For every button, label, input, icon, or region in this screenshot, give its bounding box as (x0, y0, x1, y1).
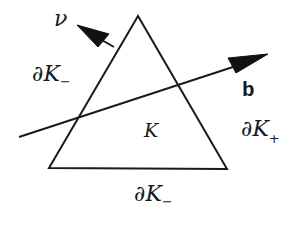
partial-symbol: ∂ (32, 61, 43, 86)
boundary-symbol: K (252, 116, 268, 141)
boundary-subscript: − (60, 74, 71, 89)
boundary-symbol: K (145, 181, 161, 206)
boundary-subscript: + (269, 131, 280, 146)
boundary-subscript: − (162, 194, 173, 209)
triangle-element (49, 16, 227, 169)
partial-symbol: ∂ (241, 116, 252, 141)
inflow-boundary-label-left: ∂K− (32, 63, 71, 85)
inflow-boundary-label-bottom: ∂K− (134, 183, 173, 205)
partial-symbol: ∂ (134, 181, 145, 206)
element-label: K (144, 121, 158, 140)
outflow-boundary-label-right: ∂K+ (241, 118, 280, 140)
diagram-canvas: ν b K ∂K− ∂K+ ∂K− (0, 0, 298, 229)
velocity-arrowhead-icon (228, 54, 268, 73)
normal-arrowhead-icon (77, 25, 109, 47)
boundary-symbol: K (43, 61, 59, 86)
velocity-vector-label: b (242, 80, 255, 101)
normal-vector-label: ν (54, 8, 67, 30)
